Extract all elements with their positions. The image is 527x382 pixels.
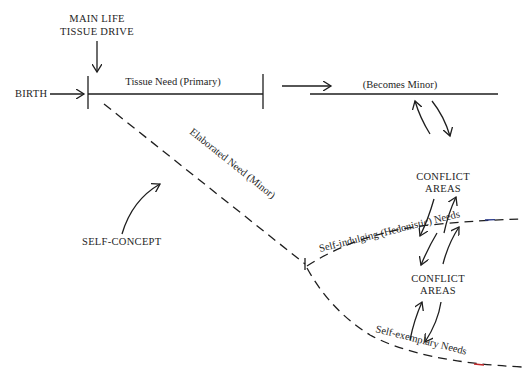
tissue-need-label: Tissue Need (Primary) — [125, 76, 221, 88]
becomes-minor-label: (Becomes Minor) — [363, 79, 438, 91]
elaborated-need-label: Elaborated Need (Minor) — [187, 126, 278, 202]
conflict-lower-up-arrow-icon — [443, 227, 459, 264]
self-exemplary-label: Self-exemplary Needs — [375, 323, 468, 356]
conflict-lower-down-arrow-icon — [421, 233, 437, 265]
self-indulging-label: Self-indulging (Hedonistic) Needs — [318, 208, 461, 255]
main-drive-line2: TISSUE DRIVE — [60, 26, 134, 37]
conflict-lower-line1: CONFLICT — [411, 273, 465, 284]
red-dash-accent — [474, 364, 484, 365]
conflict-upper-up-arrow-icon — [415, 101, 430, 134]
self-concept-arrow-icon — [122, 184, 160, 234]
main-life-tissue-drive-label: MAIN LIFE TISSUE DRIVE — [60, 13, 134, 37]
conflict-lower-line2: AREAS — [420, 285, 456, 296]
birth-label: BIRTH — [15, 88, 47, 99]
conflict-upper-down-arrow-icon — [432, 101, 450, 136]
self-concept-label: SELF-CONCEPT — [82, 236, 162, 247]
conflict-areas-lower: CONFLICT AREAS — [411, 273, 465, 296]
conflict-upper-line1: CONFLICT — [416, 171, 470, 182]
main-drive-line1: MAIN LIFE — [69, 13, 125, 24]
need-development-diagram: MAIN LIFE TISSUE DRIVE BIRTH Tissue Need… — [0, 0, 527, 382]
conflict-upper-line2: AREAS — [425, 183, 461, 194]
conflict-areas-upper: CONFLICT AREAS — [416, 171, 470, 194]
